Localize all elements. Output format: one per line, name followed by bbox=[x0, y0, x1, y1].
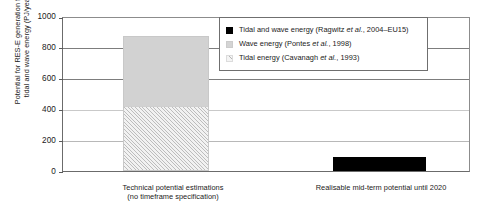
legend-label-wave-italic: et al. bbox=[312, 39, 328, 48]
x-category-label-technical: Technical potential estimations(no timef… bbox=[78, 183, 268, 202]
bar-segment-tidal-energy bbox=[124, 106, 208, 170]
legend-label-tidal-and-wave-pre: Tidal and wave energy (Ragwitz bbox=[239, 25, 347, 34]
chart-root: Potential for RES-E generation fromtidal… bbox=[0, 0, 490, 210]
bar-realisable-mid-term bbox=[333, 157, 426, 171]
legend-label-tidal-post: , 1993) bbox=[336, 53, 359, 62]
legend-item-tidal: Tidal energy (Cavanagh et al., 1993) bbox=[226, 51, 421, 65]
legend-swatch-wave-icon bbox=[226, 41, 233, 48]
legend-label-tidal-and-wave: Tidal and wave energy (Ragwitz et al., 2… bbox=[239, 26, 409, 34]
legend-label-tidal-italic: et al. bbox=[320, 53, 336, 62]
y-tick-label-0: 0 bbox=[28, 168, 56, 176]
y-tick-mark-400 bbox=[59, 110, 63, 111]
y-axis-title-line1: Potential for RES-E generation from bbox=[13, 0, 22, 104]
legend-label-tidal: Tidal energy (Cavanagh et al., 1993) bbox=[239, 54, 359, 62]
y-tick-label-800: 800 bbox=[28, 44, 56, 52]
legend-label-tidal-and-wave-italic: et al. bbox=[347, 25, 363, 34]
legend-label-wave-post: , 1998) bbox=[328, 39, 351, 48]
y-tick-label-400: 400 bbox=[28, 106, 56, 114]
legend-label-wave: Wave energy (Pontes et al., 1998) bbox=[239, 40, 352, 48]
y-tick-mark-600 bbox=[59, 79, 63, 80]
chart-legend: Tidal and wave energy (Ragwitz et al., 2… bbox=[219, 17, 428, 71]
x-category-label-technical-line2: (no timeframe specification) bbox=[127, 192, 218, 201]
legend-label-tidal-and-wave-post: , 2004–EU15) bbox=[363, 25, 409, 34]
y-tick-mark-200 bbox=[59, 141, 63, 142]
y-tick-mark-0 bbox=[59, 172, 63, 173]
legend-swatch-tidal-icon bbox=[226, 55, 233, 62]
legend-label-tidal-pre: Tidal energy (Cavanagh bbox=[239, 53, 320, 62]
legend-item-wave: Wave energy (Pontes et al., 1998) bbox=[226, 37, 421, 51]
y-tick-label-1000: 1000 bbox=[28, 13, 56, 21]
x-category-label-realisable-line1: Realisable mid-term potential until 2020 bbox=[316, 183, 447, 192]
legend-swatch-tidal-and-wave-icon bbox=[226, 27, 233, 34]
y-tick-mark-1000 bbox=[59, 18, 63, 19]
x-category-label-realisable: Realisable mid-term potential until 2020 bbox=[281, 183, 481, 192]
x-category-label-technical-line1: Technical potential estimations bbox=[123, 183, 224, 192]
legend-item-tidal-and-wave: Tidal and wave energy (Ragwitz et al., 2… bbox=[226, 23, 421, 37]
bar-technical-potential bbox=[123, 36, 209, 171]
legend-label-wave-pre: Wave energy (Pontes bbox=[239, 39, 312, 48]
y-tick-label-600: 600 bbox=[28, 75, 56, 83]
y-tick-mark-800 bbox=[59, 48, 63, 49]
y-tick-label-200: 200 bbox=[28, 137, 56, 145]
